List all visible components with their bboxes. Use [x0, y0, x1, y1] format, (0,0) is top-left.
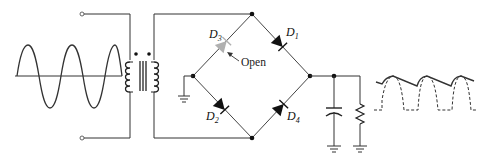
- capacitor: [326, 76, 342, 146]
- open-annotation: Open: [227, 52, 266, 69]
- output-waveform: [374, 76, 476, 110]
- secondary-bottom-wire: [154, 92, 252, 138]
- open-label: Open: [241, 56, 266, 69]
- bridge-rectifier-diagram: D3 D1 D2 D4 Open: [0, 0, 487, 164]
- secondary-top-wire: [154, 14, 252, 60]
- label-d2: D2: [205, 109, 219, 125]
- label-d1: D1: [285, 25, 299, 41]
- ground-capacitor: [327, 146, 341, 152]
- dot-secondary: [147, 52, 151, 56]
- label-d3: D3: [208, 27, 222, 43]
- dot-primary: [134, 52, 138, 56]
- ground-bridge: [178, 76, 193, 102]
- output-network: [310, 74, 367, 152]
- input-sine-wave: [15, 45, 122, 108]
- label-d4: D4: [286, 109, 300, 125]
- resistor: [356, 104, 364, 146]
- ground-resistor: [353, 146, 367, 152]
